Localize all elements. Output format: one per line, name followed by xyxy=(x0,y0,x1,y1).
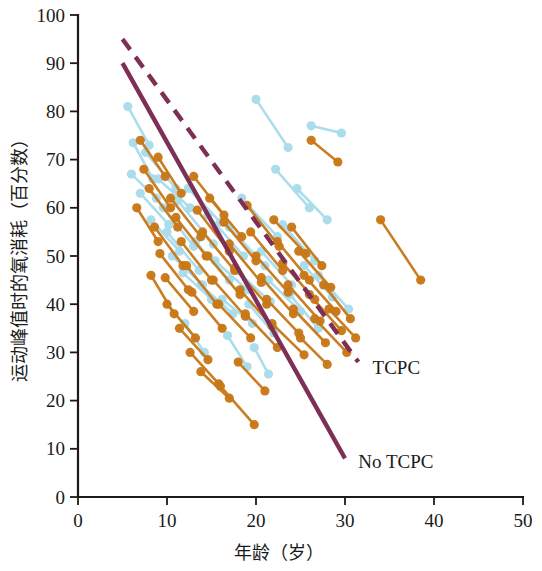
pair-connector-line xyxy=(381,220,421,280)
data-point-marker xyxy=(269,215,278,224)
data-point-marker xyxy=(323,215,332,224)
x-tick-label: 0 xyxy=(73,510,83,531)
data-point-marker xyxy=(292,184,301,193)
data-point-marker xyxy=(127,169,136,178)
data-point-marker xyxy=(171,213,180,222)
data-point-marker xyxy=(203,355,212,364)
pair-connector-line xyxy=(201,372,229,399)
data-point-marker xyxy=(346,314,355,323)
data-point-marker xyxy=(296,333,305,342)
y-tick-label: 80 xyxy=(46,101,65,122)
data-point-marker xyxy=(205,194,214,203)
data-point-marker xyxy=(307,121,316,130)
oxygen-consumption-vs-age-chart: 010203040506070809010001020304050 TCPCNo… xyxy=(0,0,542,571)
data-point-marker xyxy=(218,324,227,333)
y-tick-label: 60 xyxy=(46,197,65,218)
y-tick-label: 10 xyxy=(46,438,65,459)
data-point-marker xyxy=(289,304,298,313)
y-tick-label: 90 xyxy=(46,53,65,74)
data-point-marker xyxy=(307,136,316,145)
data-point-marker xyxy=(234,357,243,366)
pair-connector-line xyxy=(256,99,288,147)
y-tick-label: 0 xyxy=(56,487,66,508)
data-point-marker xyxy=(146,271,155,280)
data-point-marker xyxy=(416,276,425,285)
x-tick-label: 50 xyxy=(514,510,533,531)
data-point-marker xyxy=(150,222,159,231)
data-point-marker xyxy=(275,242,284,251)
data-point-marker xyxy=(186,348,195,357)
data-point-marker xyxy=(155,249,164,258)
data-point-marker xyxy=(319,280,328,289)
data-point-marker xyxy=(287,222,296,231)
data-point-marker xyxy=(196,367,205,376)
data-point-marker xyxy=(283,280,292,289)
data-point-marker xyxy=(262,295,271,304)
y-tick-label: 20 xyxy=(46,390,65,411)
data-point-marker xyxy=(123,102,132,111)
data-point-marker xyxy=(251,251,260,260)
data-point-marker xyxy=(317,261,326,270)
data-point-marker xyxy=(299,350,308,359)
data-point-marker xyxy=(161,273,170,282)
data-point-marker xyxy=(214,300,223,309)
data-point-marker xyxy=(237,232,246,241)
data-point-marker xyxy=(250,343,259,352)
data-point-marker xyxy=(260,386,269,395)
x-tick-label: 10 xyxy=(158,510,177,531)
data-point-marker xyxy=(251,95,260,104)
data-point-marker xyxy=(264,369,273,378)
pair-connector-line xyxy=(220,386,254,425)
pair-connector-line xyxy=(311,140,338,162)
data-point-marker xyxy=(299,271,308,280)
pair-connector-line xyxy=(247,205,279,246)
y-tick-label: 70 xyxy=(46,149,65,170)
data-point-marker xyxy=(376,215,385,224)
data-point-marker xyxy=(187,288,196,297)
y-tick-label: 100 xyxy=(37,5,66,26)
pair-connector-line xyxy=(311,126,341,133)
y-tick-label: 50 xyxy=(46,246,65,267)
pair-connector-line xyxy=(297,189,327,220)
data-point-marker xyxy=(333,157,342,166)
data-point-marker xyxy=(136,189,145,198)
data-point-marker xyxy=(246,227,255,236)
data-point-marker xyxy=(177,189,186,198)
y-axis-title: 运动峰值时的氧消耗（百分数） xyxy=(9,130,30,382)
data-point-marker xyxy=(182,261,191,270)
data-point-marker xyxy=(203,251,212,260)
data-point-marker xyxy=(323,360,332,369)
data-point-marker xyxy=(145,184,154,193)
data-point-marker xyxy=(271,165,280,174)
data-point-marker xyxy=(324,304,333,313)
y-tick-label: 40 xyxy=(46,294,65,315)
data-point-marker xyxy=(136,136,145,145)
data-point-marker xyxy=(132,203,141,212)
x-tick-label: 20 xyxy=(247,510,266,531)
x-axis-title: 年龄（岁） xyxy=(234,542,324,563)
data-point-marker xyxy=(310,314,319,323)
series-annotation-tcpc: TCPC xyxy=(373,357,421,378)
data-point-marker xyxy=(241,309,250,318)
series-no-tcpc xyxy=(132,136,425,430)
data-point-marker xyxy=(250,420,259,429)
data-point-marker xyxy=(283,143,292,152)
x-tick-label: 30 xyxy=(336,510,355,531)
data-point-marker xyxy=(351,333,360,342)
data-point-marker xyxy=(177,237,186,246)
data-point-marker xyxy=(321,338,330,347)
data-point-marker xyxy=(166,194,175,203)
trend-lines-group xyxy=(123,39,359,458)
data-point-marker xyxy=(139,165,148,174)
x-tick-label: 40 xyxy=(425,510,444,531)
data-point-marker xyxy=(189,307,198,316)
y-tick-label: 30 xyxy=(46,342,65,363)
data-point-marker xyxy=(198,227,207,236)
axis-lines xyxy=(78,15,523,497)
data-point-marker xyxy=(246,333,255,342)
data-point-marker xyxy=(235,285,244,294)
data-point-marker xyxy=(257,273,266,282)
data-point-marker xyxy=(162,227,171,236)
data-point-marker xyxy=(193,206,202,215)
data-point-marker xyxy=(154,153,163,162)
